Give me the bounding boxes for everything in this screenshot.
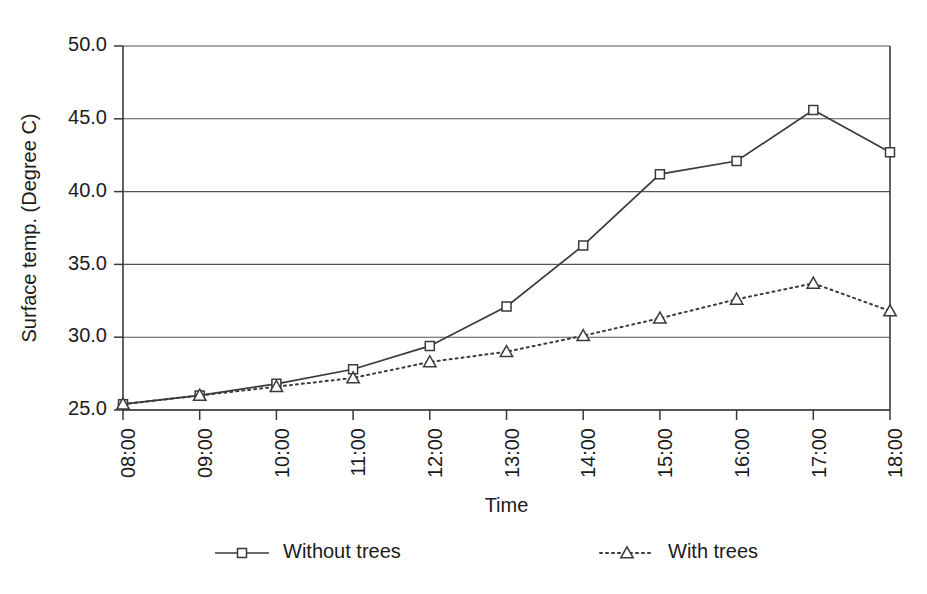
triangle-marker [884, 305, 896, 316]
y-tick-label: 50.0 [68, 33, 107, 55]
x-tick-label: 12:00 [424, 428, 446, 478]
x-axis-title: Time [485, 494, 529, 516]
x-axis-ticks: 08:0009:0010:0011:0012:0013:0014:0015:00… [117, 410, 906, 478]
x-tick-label: 08:00 [117, 428, 139, 478]
y-tick-label: 35.0 [68, 252, 107, 274]
series-layer [117, 106, 896, 409]
square-marker [732, 157, 741, 166]
triangle-marker [807, 277, 819, 288]
x-tick-label: 13:00 [501, 428, 523, 478]
x-tick-label: 17:00 [808, 428, 830, 478]
y-tick-label: 45.0 [68, 106, 107, 128]
series-line [123, 110, 890, 404]
chart-container: 25.030.035.040.045.050.0 08:0009:0010:00… [0, 0, 927, 594]
square-marker [809, 106, 818, 115]
x-tick-label: 16:00 [731, 428, 753, 478]
y-axis-ticks: 25.030.035.040.045.050.0 [68, 33, 123, 419]
y-tick-label: 25.0 [68, 397, 107, 419]
chart-legend: Without treesWith trees [215, 540, 758, 562]
x-tick-label: 11:00 [347, 428, 369, 477]
x-tick-label: 18:00 [884, 428, 906, 478]
square-marker [886, 148, 895, 157]
y-tick-label: 40.0 [68, 179, 107, 201]
square-marker [579, 241, 588, 250]
x-tick-label: 09:00 [194, 428, 216, 478]
square-marker [425, 341, 434, 350]
legend-label: Without trees [283, 540, 401, 562]
square-marker [238, 549, 247, 558]
y-tick-label: 30.0 [68, 324, 107, 346]
x-tick-label: 14:00 [577, 428, 599, 478]
legend-item: With trees [600, 540, 758, 562]
x-tick-label: 15:00 [654, 428, 676, 478]
x-tick-label: 10:00 [271, 428, 293, 478]
square-marker [655, 170, 664, 179]
y-axis-title: Surface temp. (Degree C) [18, 114, 40, 343]
line-chart: 25.030.035.040.045.050.0 08:0009:0010:00… [0, 0, 927, 594]
legend-item: Without trees [215, 540, 401, 562]
triangle-marker [730, 293, 742, 304]
square-marker [502, 302, 511, 311]
legend-label: With trees [668, 540, 758, 562]
